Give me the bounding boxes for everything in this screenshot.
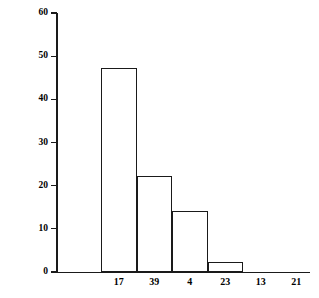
bar-39 bbox=[137, 176, 173, 272]
x-axis-label-4: 4 bbox=[172, 277, 208, 287]
x-axis-label-13: 13 bbox=[243, 277, 279, 287]
x-axis-label-39: 39 bbox=[137, 277, 173, 287]
x-axis-label-17: 17 bbox=[101, 277, 137, 287]
bar-chart: PERCENT POSITIVE 0102030405060 173942313… bbox=[0, 0, 319, 298]
bar-17 bbox=[101, 68, 137, 272]
bars-group bbox=[0, 13, 319, 272]
x-axis-label-21: 21 bbox=[279, 277, 315, 287]
x-axis-label-23: 23 bbox=[208, 277, 244, 287]
bar-4 bbox=[172, 211, 208, 272]
bar-23 bbox=[208, 262, 244, 272]
